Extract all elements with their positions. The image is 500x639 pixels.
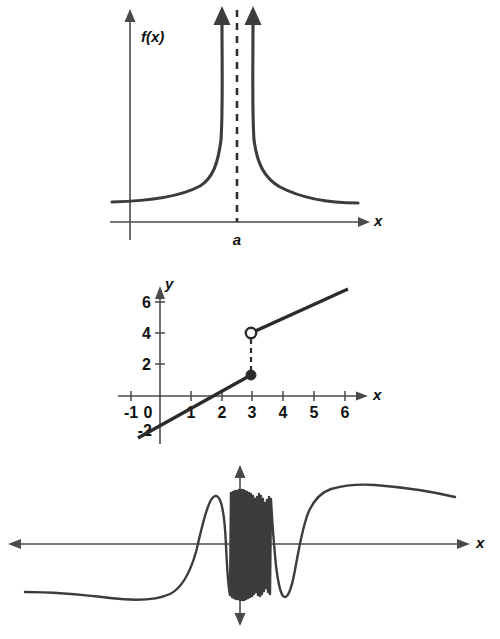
figure-root: x f(x) a x y (0, 0, 500, 639)
oscillating-curve (25, 485, 455, 600)
axis-label-x-panel3: x (475, 534, 485, 551)
panel-oscillating-discontinuity: x (0, 0, 500, 639)
